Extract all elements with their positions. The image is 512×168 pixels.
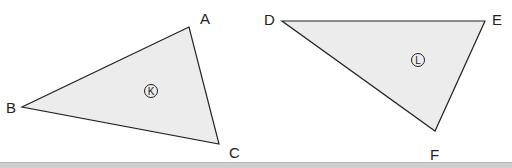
- vertex-label-c: C: [229, 144, 240, 161]
- vertex-label-b: B: [6, 99, 16, 116]
- vertex-label-e: E: [492, 11, 502, 28]
- diagram-canvas: A B C K D E F L: [0, 0, 512, 168]
- bottom-divider-bar: [0, 162, 512, 168]
- triangle-k-label: K: [148, 86, 155, 97]
- triangle-k: A B C K: [6, 10, 240, 161]
- vertex-label-f: F: [430, 146, 439, 163]
- triangle-k-shape: [22, 27, 219, 144]
- triangle-l: D E F L: [264, 11, 502, 163]
- vertex-label-a: A: [200, 10, 210, 27]
- vertex-label-d: D: [264, 11, 275, 28]
- triangle-l-shape: [282, 21, 485, 131]
- triangle-l-label: L: [415, 55, 421, 66]
